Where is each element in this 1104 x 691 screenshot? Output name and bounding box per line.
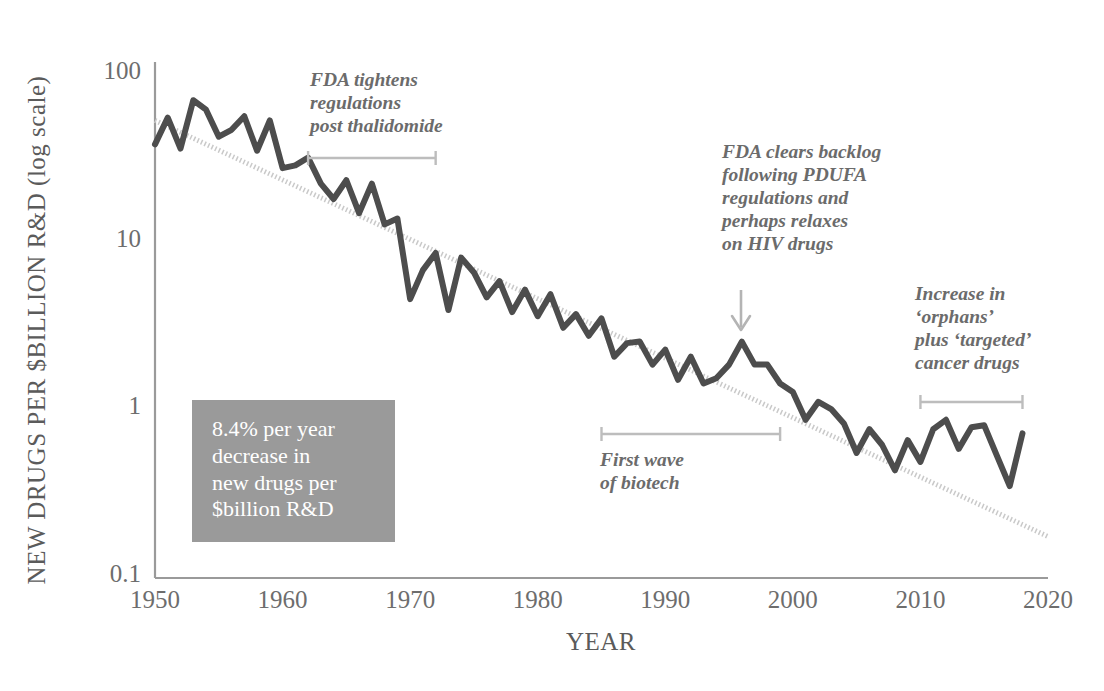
x-tick-label: 1980 [513, 586, 563, 613]
y-tick-label: 0.1 [110, 560, 141, 587]
bracket-first-wave-biotech [602, 427, 781, 441]
callout-box-decrease-rate: 8.4% per year decrease in new drugs per … [192, 400, 395, 542]
x-tick-labels: 19501960197019801990200020102020 [130, 586, 1073, 613]
chart-figure: 1001010.1 195019601970198019902000201020… [0, 0, 1104, 691]
annotation-orphans-targeted: Increase in ‘orphans’ plus ‘targeted’ ca… [915, 282, 1104, 374]
y-tick-label: 1 [129, 392, 142, 419]
x-axis-title: YEAR [566, 628, 636, 655]
annotation-first-wave-biotech: First wave of biotech [600, 448, 780, 494]
annotation-fda-thalidomide: FDA tightens regulations post thalidomid… [310, 68, 490, 137]
y-tick-label: 100 [104, 57, 142, 84]
pdufa-arrow-icon [732, 290, 750, 330]
y-tick-labels: 1001010.1 [104, 57, 142, 587]
x-tick-label: 2020 [1023, 586, 1073, 613]
x-tick-label: 2000 [768, 586, 818, 613]
x-tick-label: 2010 [895, 586, 945, 613]
x-tick-label: 1970 [385, 586, 435, 613]
x-tick-label: 1950 [130, 586, 180, 613]
annotation-pdufa-backlog: FDA clears backlog following PDUFA regul… [722, 140, 942, 255]
bracket-fda-thalidomide [308, 151, 436, 165]
bracket-orphans-targeted [920, 395, 1022, 409]
x-tick-label: 1960 [258, 586, 308, 613]
y-tick-label: 10 [116, 225, 141, 252]
x-tick-label: 1990 [640, 586, 690, 613]
y-axis-title: NEW DRUGS PER $BILLION R&D (log scale) [23, 76, 51, 585]
